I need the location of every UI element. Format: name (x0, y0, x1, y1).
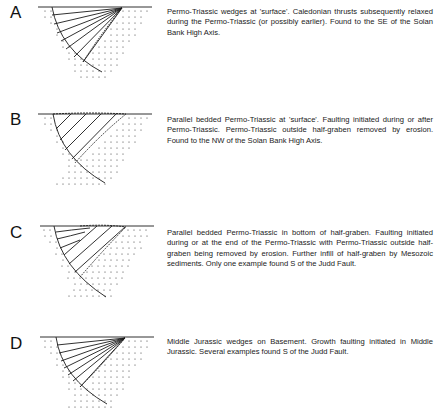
fault-curve (52, 7, 102, 72)
mesozoic-infill-beds (56, 228, 90, 248)
panel-label: B (10, 111, 21, 128)
fault-curve (54, 226, 106, 297)
caption-d: Middle Jurassic wedges on Basement. Grow… (167, 337, 433, 358)
caption-b: Parallel bedded Permo-Triassic at 'surfa… (167, 115, 433, 146)
panel-b: B Parallel bedded Permo-Triassic at 'sur… (0, 105, 443, 205)
basement-dots (44, 117, 147, 184)
caption-a: Permo-Triassic wedges at 'surface'. Cale… (167, 7, 433, 38)
parallel-beds (50, 110, 135, 168)
panel-label: C (10, 224, 22, 241)
panel-d: D Middle Jurassic wedges on Basement. Gr… (0, 330, 443, 412)
panel-label: D (10, 335, 22, 352)
basement-dots (43, 229, 147, 296)
panel-c: C Parallel bedded Permo-Triassic i (0, 218, 443, 318)
panel-a: A Permo-Triassic wedges at 'surface'. Ca… (0, 0, 443, 100)
half-graben-diagram-c (30, 218, 155, 303)
parallel-beds (64, 226, 125, 272)
wedge-diagram-a (30, 0, 155, 85)
half-graben-diagram-b (30, 105, 155, 190)
panel-label: A (10, 4, 21, 21)
wedge-diagram-d (30, 330, 155, 412)
wedge-lines (57, 338, 125, 387)
half-graben-base (75, 114, 126, 163)
caption-c: Parallel bedded Permo-Triassic in bottom… (167, 228, 433, 270)
